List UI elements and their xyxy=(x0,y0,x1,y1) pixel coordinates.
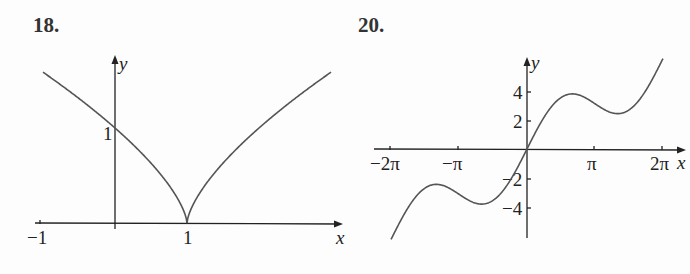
chart-20-y-tick-label: −4 xyxy=(502,198,523,219)
chart-18-y-arrow-icon xyxy=(112,55,119,64)
chart-20-x-axis xyxy=(374,149,682,150)
chart-20-x-tick-label: −2π xyxy=(370,153,400,174)
chart-18-curve xyxy=(43,72,331,223)
chart-18-number: 18. xyxy=(33,13,59,37)
chart-20-x-label: x xyxy=(676,152,686,173)
chart-20-y-tick-label: 4 xyxy=(513,82,523,103)
chart-18-x-tick-label: −1 xyxy=(27,227,47,248)
chart-18-x-label: x xyxy=(335,227,345,248)
chart-20-y-tick-label: 2 xyxy=(513,111,523,132)
chart-20-number: 20. xyxy=(358,13,384,37)
chart-18-y-tick-label: 1 xyxy=(103,123,113,144)
chart-20: 20. y x −2π −π π 2π 4 2 −2 −4 xyxy=(358,13,686,239)
chart-20-x-tick-label: −π xyxy=(442,153,463,174)
chart-20-x-tick-label: π xyxy=(587,153,597,174)
chart-20-y-label: y xyxy=(529,52,540,73)
figure: 18. y x −1 1 1 20. y x xyxy=(0,0,690,274)
chart-20-x-tick-label: 2π xyxy=(650,153,670,174)
chart-18-y-label: y xyxy=(117,53,128,74)
chart-20-y-arrow-icon xyxy=(524,57,531,66)
chart-18: 18. y x −1 1 1 xyxy=(27,13,345,248)
chart-18-x-tick-label: 1 xyxy=(183,227,193,248)
